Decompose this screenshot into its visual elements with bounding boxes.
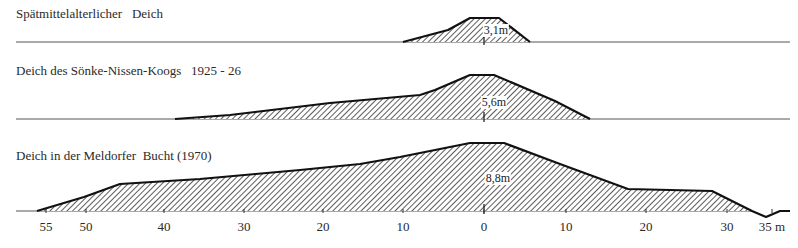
axis-tick-label: 30	[238, 219, 251, 235]
height-label-medieval: 3,1m	[483, 24, 509, 37]
title-soenke-nissen-dike: Deich des Sönke-Nissen-Koogs 1925 - 26	[16, 63, 241, 79]
dike-profiles-drawing	[0, 0, 798, 248]
axis-tick-label: 50	[80, 219, 93, 235]
axis-tick-label: 35 m	[759, 219, 785, 235]
axis-tick-label: 10	[397, 219, 410, 235]
title-meldorf-dike: Deich in der Meldorfer Bucht (1970)	[16, 148, 212, 164]
axis-tick-label: 55	[40, 219, 53, 235]
height-label-soenke-nissen: 5,6m	[481, 96, 507, 109]
height-label-meldorf: 8,8m	[485, 172, 511, 185]
axis-tick-label: 20	[317, 219, 330, 235]
axis-tick-label: 10	[560, 219, 573, 235]
title-medieval-dike: Spätmittelalterlicher Deich	[16, 6, 163, 22]
dike-profile-soenke-nissen	[175, 75, 590, 119]
axis-tick-label: 20	[640, 219, 653, 235]
axis-tick-label: 0	[481, 219, 488, 235]
axis-tick-label: 30	[721, 219, 734, 235]
dike-profile-medieval	[403, 18, 530, 42]
axis-tick-label: 40	[158, 219, 171, 235]
